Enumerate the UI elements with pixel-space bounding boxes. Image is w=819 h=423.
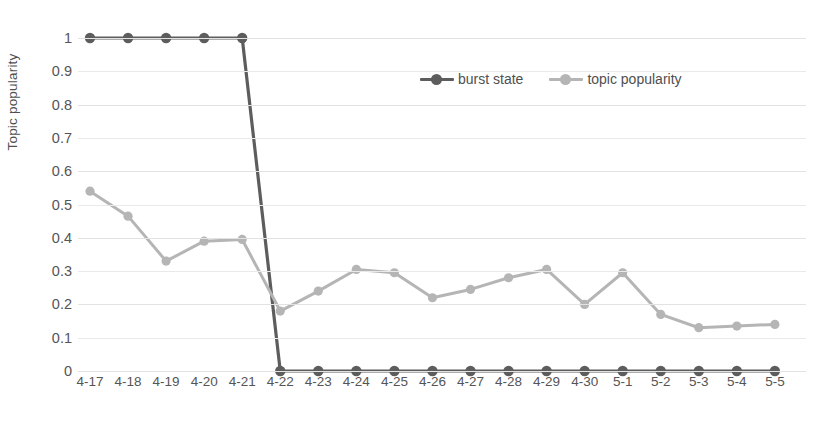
data-point <box>390 268 399 277</box>
gridline <box>78 238 806 239</box>
data-point <box>428 293 437 302</box>
y-axis-tick-label: 0.2 <box>26 296 72 312</box>
legend-marker-icon <box>420 72 454 86</box>
gridline <box>78 171 806 172</box>
y-axis-tick-label: 0.7 <box>26 130 72 146</box>
x-axis-tick-label: 5-5 <box>747 374 803 389</box>
y-axis-tick-label: 0.3 <box>26 263 72 279</box>
y-axis-title: Topic popularity <box>2 37 24 167</box>
data-point <box>656 310 665 319</box>
data-point <box>504 273 513 282</box>
chart-legend: burst statetopic popularity <box>420 68 682 90</box>
data-point <box>352 265 361 274</box>
gridline <box>78 304 806 305</box>
data-point <box>770 320 779 329</box>
data-point <box>85 187 94 196</box>
data-point <box>314 286 323 295</box>
x-axis-tick-labels: 4-174-184-194-204-214-224-234-244-254-26… <box>0 374 819 404</box>
series-line <box>90 191 775 328</box>
gridline <box>78 371 806 372</box>
y-axis-tick-label: 0.9 <box>26 63 72 79</box>
gridline <box>78 38 806 39</box>
y-axis-tick-label: 0.4 <box>26 230 72 246</box>
gridline <box>78 205 806 206</box>
data-point <box>276 306 285 315</box>
legend-label: burst state <box>458 71 523 87</box>
data-point <box>618 268 627 277</box>
legend-marker-icon <box>549 72 583 86</box>
line-chart: Topic popularity 10.90.80.70.60.50.40.30… <box>0 0 819 423</box>
data-point <box>238 235 247 244</box>
legend-entry[interactable]: topic popularity <box>549 71 681 87</box>
data-point <box>162 257 171 266</box>
y-axis-tick-label: 0.6 <box>26 163 72 179</box>
gridline <box>78 338 806 339</box>
gridline <box>78 138 806 139</box>
data-point <box>123 212 132 221</box>
y-axis-tick-label: 1 <box>26 30 72 46</box>
data-point <box>542 265 551 274</box>
legend-label: topic popularity <box>587 71 681 87</box>
data-point <box>694 323 703 332</box>
data-point <box>732 321 741 330</box>
y-axis-tick-label: 0.8 <box>26 97 72 113</box>
y-axis-tick-labels: 10.90.80.70.60.50.40.30.20.10 <box>26 0 72 423</box>
gridline <box>78 271 806 272</box>
gridline <box>78 105 806 106</box>
y-axis-tick-label: 0.5 <box>26 197 72 213</box>
series-topic-popularity <box>85 187 779 333</box>
data-point <box>466 285 475 294</box>
legend-entry[interactable]: burst state <box>420 71 523 87</box>
y-axis-tick-label: 0.1 <box>26 330 72 346</box>
